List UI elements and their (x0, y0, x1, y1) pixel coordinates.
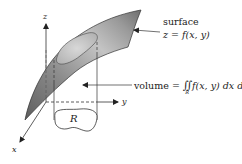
integrand: f(x, y) dx dy (192, 80, 242, 91)
region-r-label: R (70, 114, 78, 124)
volume-prefix: volume = (134, 80, 183, 91)
surface-label: surface z = f(x, y) (163, 17, 210, 39)
y-axis-label: y (122, 98, 127, 106)
integral-subscript: R (185, 89, 189, 95)
surface-eq-eq: = (168, 29, 182, 40)
surface-pointer (134, 30, 160, 32)
x-axis-label: x (12, 146, 17, 154)
double-integral-diagram: z y x R surface z = f(x, y) volume = ∬Rf… (0, 0, 242, 164)
volume-label: volume = ∬Rf(x, y) dx dy (134, 80, 242, 91)
z-axis-label: z (43, 13, 47, 21)
surface-label-equation: z = f(x, y) (163, 30, 210, 40)
surface-label-title: surface (163, 17, 210, 27)
surface-eq-rhs: f(x, y) (182, 29, 210, 40)
